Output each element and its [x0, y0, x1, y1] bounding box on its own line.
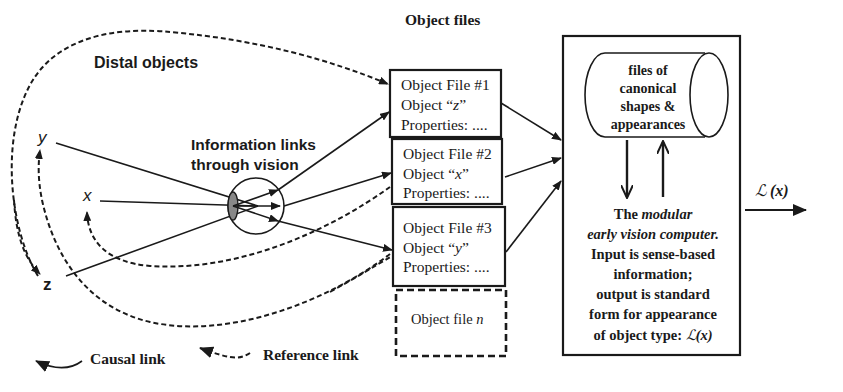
reference-link-of3 — [330, 256, 392, 292]
var-x-label: x — [82, 186, 92, 205]
cylinder-text-3: shapes & — [621, 99, 676, 114]
info-link-of2 — [284, 173, 391, 206]
computer-text-6: form for appearance — [589, 306, 717, 322]
object-file-2-object: Object “x” — [403, 165, 469, 182]
info-link-of3 — [278, 221, 392, 250]
reference-link-y — [39, 150, 390, 326]
info-links-label-1: Information links — [191, 136, 316, 153]
object-file-1-title: Object File #1 — [401, 76, 490, 93]
computer-text-4: information; — [614, 266, 693, 282]
object-file-3-properties: Properties: .... — [403, 258, 490, 275]
computer-text-2: early vision computer. — [587, 226, 719, 242]
diagram-canvas: Distal objects Information links through… — [0, 0, 843, 392]
object-file-n-label: Object file n — [411, 311, 483, 327]
reference-link-x — [87, 187, 390, 267]
computer-text-7: of object type: ℒ(x) — [593, 327, 712, 344]
diagram-svg: Distal objects Information links through… — [0, 0, 843, 392]
computer-text-5: output is standard — [596, 286, 710, 302]
causal-link-legend-label: Causal link — [90, 350, 166, 367]
computer-text-3: Input is sense-based — [591, 246, 715, 262]
object-file-2-title: Object File #2 — [403, 145, 492, 162]
reference-link-legend-label: Reference link — [263, 346, 359, 363]
reference-link-outer-loop — [12, 31, 388, 276]
cylinder-text-2: canonical — [620, 81, 677, 96]
of1-to-computer-arrow — [501, 103, 561, 140]
of2-to-computer-arrow — [505, 158, 561, 177]
object-file-1-properties: Properties: .... — [401, 116, 488, 133]
object-file-3-object: Object “y” — [403, 239, 469, 256]
object-file-3-title: Object File #3 — [403, 219, 492, 236]
var-y-label: y — [37, 128, 48, 147]
reference-link-legend-arrow — [200, 348, 250, 358]
object-file-2-properties: Properties: .... — [403, 184, 490, 201]
cylinder-text-4: appearances — [611, 117, 686, 132]
object-file-1-object: Object “z” — [401, 96, 466, 113]
cylinder-text-1: files of — [628, 63, 668, 78]
causal-link-legend-arrow — [36, 361, 82, 368]
computer-text-1: The modular — [614, 206, 693, 222]
reference-link-to-z — [14, 200, 40, 274]
var-z-label: z — [43, 275, 52, 294]
object-files-title: Object files — [405, 11, 480, 28]
distal-objects-label: Distal objects — [94, 54, 198, 71]
of3-to-computer-arrow — [506, 181, 561, 252]
eye-ray-upper — [233, 190, 278, 206]
info-links-label-2: through vision — [191, 156, 299, 173]
output-label: ℒ(x) — [755, 182, 789, 200]
